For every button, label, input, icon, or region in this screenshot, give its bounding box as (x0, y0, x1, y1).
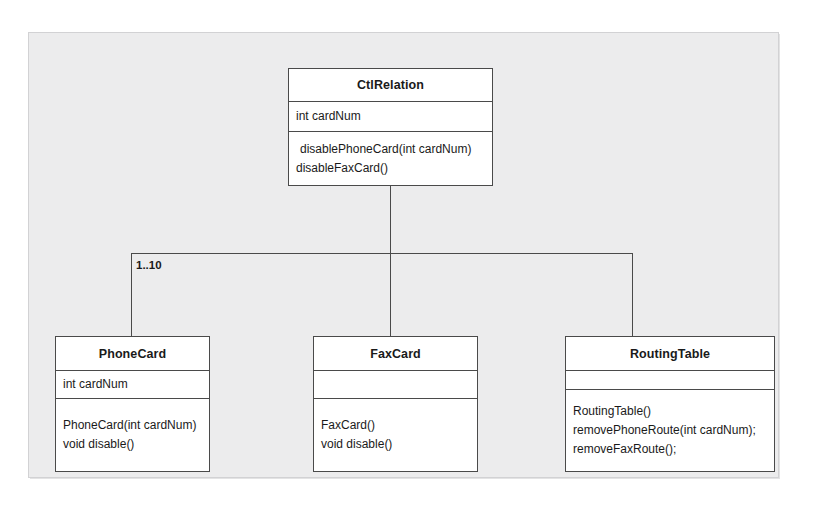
class-operation: PhoneCard(int cardNum) (63, 416, 209, 435)
class-operation: removePhoneRoute(int cardNum); (573, 421, 774, 440)
uml-class-fax-card[interactable]: FaxCard FaxCard() void disable() (313, 336, 478, 472)
uml-class-phone-card[interactable]: PhoneCard int cardNum PhoneCard(int card… (55, 336, 210, 472)
class-name: CtlRelation (357, 78, 424, 92)
class-attribute: int cardNum (296, 107, 492, 126)
class-operation: FaxCard() (321, 416, 477, 435)
class-operations-compartment: RoutingTable() removePhoneRoute(int card… (566, 389, 774, 471)
class-operation: void disable() (321, 435, 477, 454)
class-name: PhoneCard (99, 347, 167, 361)
class-operations-compartment: PhoneCard(int cardNum) void disable() (56, 398, 209, 471)
class-operations-compartment: FaxCard() void disable() (314, 398, 477, 471)
class-operation: disablePhoneCard(int cardNum) (296, 140, 492, 159)
multiplicity-label-phone-card: 1..10 (136, 259, 162, 271)
class-operations-compartment: disablePhoneCard(int cardNum) disableFax… (289, 131, 492, 185)
class-name-compartment: CtlRelation (289, 69, 492, 101)
class-attributes-compartment (566, 370, 774, 389)
diagram-canvas: 1..10 CtlRelation int cardNum disablePho… (0, 0, 814, 514)
uml-class-routing-table[interactable]: RoutingTable RoutingTable() removePhoneR… (565, 336, 775, 472)
class-attribute: int cardNum (63, 375, 209, 394)
class-name: RoutingTable (630, 347, 710, 361)
class-name-compartment: FaxCard (314, 337, 477, 370)
class-operation: removeFaxRoute(); (573, 440, 774, 459)
class-attributes-compartment (314, 370, 477, 398)
class-name-compartment: PhoneCard (56, 337, 209, 370)
class-operation: RoutingTable() (573, 402, 774, 421)
class-attributes-compartment: int cardNum (289, 101, 492, 131)
class-operation: void disable() (63, 435, 209, 454)
class-name-compartment: RoutingTable (566, 337, 774, 370)
class-name: FaxCard (370, 347, 421, 361)
class-attributes-compartment: int cardNum (56, 370, 209, 398)
uml-class-ctl-relation[interactable]: CtlRelation int cardNum disablePhoneCard… (288, 68, 493, 186)
class-operation: disableFaxCard() (296, 159, 492, 178)
